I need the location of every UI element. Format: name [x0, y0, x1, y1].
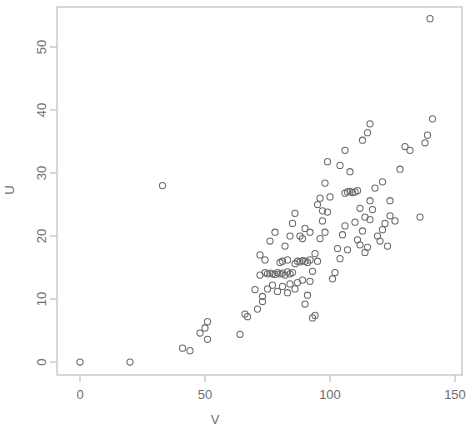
data-point	[362, 214, 368, 220]
data-point	[407, 147, 413, 153]
data-point	[252, 286, 258, 292]
y-tick-label: 50	[34, 40, 49, 54]
data-point	[179, 345, 185, 351]
data-point	[364, 130, 370, 136]
data-point	[304, 292, 310, 298]
data-point	[319, 218, 325, 224]
data-point	[429, 116, 435, 122]
data-point	[387, 198, 393, 204]
data-point	[257, 252, 263, 258]
y-tick-label: 0	[34, 358, 49, 365]
y-tick-label: 40	[34, 103, 49, 117]
plot-canvas: 050100150 01020304050 V U	[0, 0, 468, 434]
data-point	[274, 288, 280, 294]
data-point	[344, 247, 350, 253]
data-point	[309, 268, 315, 274]
data-point	[397, 166, 403, 172]
data-point	[312, 251, 318, 257]
data-point	[379, 179, 385, 185]
data-point	[202, 325, 208, 331]
data-point	[267, 238, 273, 244]
data-point	[77, 359, 83, 365]
data-point	[317, 235, 323, 241]
y-tick-label: 10	[34, 292, 49, 306]
data-point	[314, 201, 320, 207]
x-tick-label: 100	[319, 387, 341, 402]
data-point	[322, 180, 328, 186]
x-axis-title: V	[211, 412, 220, 427]
data-point	[424, 132, 430, 138]
data-point	[187, 348, 193, 354]
data-point	[369, 206, 375, 212]
data-point	[367, 198, 373, 204]
y-axis-ticks: 01020304050	[34, 40, 57, 366]
data-point	[392, 218, 398, 224]
data-point	[384, 243, 390, 249]
data-point	[204, 319, 210, 325]
data-point	[342, 223, 348, 229]
data-point	[292, 210, 298, 216]
data-point	[307, 229, 313, 235]
y-axis-title: U	[2, 185, 17, 194]
data-point	[317, 195, 323, 201]
data-point	[359, 228, 365, 234]
data-point	[327, 194, 333, 200]
data-point	[337, 162, 343, 168]
data-point	[332, 269, 338, 275]
data-point	[307, 278, 313, 284]
data-point	[387, 213, 393, 219]
x-tick-label: 150	[444, 387, 466, 402]
y-tick-label: 20	[34, 229, 49, 243]
data-point	[292, 286, 298, 292]
data-point	[204, 336, 210, 342]
data-point	[272, 229, 278, 235]
data-point	[262, 257, 268, 263]
data-point	[197, 330, 203, 336]
data-point	[322, 229, 328, 235]
data-point	[379, 227, 385, 233]
data-point	[159, 183, 165, 189]
data-point	[279, 283, 285, 289]
data-point	[287, 281, 293, 287]
data-point	[324, 159, 330, 165]
scatter-plot-figure: 050100150 01020304050 V U	[0, 0, 468, 434]
data-point	[334, 246, 340, 252]
data-point	[237, 331, 243, 337]
data-point	[342, 147, 348, 153]
data-point	[299, 277, 305, 283]
data-point	[269, 282, 275, 288]
data-point	[314, 258, 320, 264]
x-axis-ticks: 050100150	[76, 375, 465, 402]
data-point	[367, 121, 373, 127]
data-point	[289, 220, 295, 226]
data-point	[329, 276, 335, 282]
data-point	[422, 140, 428, 146]
x-tick-label: 50	[198, 387, 212, 402]
y-tick-label: 30	[34, 166, 49, 180]
data-point	[359, 137, 365, 143]
data-point	[339, 232, 345, 238]
data-point	[417, 214, 423, 220]
plot-frame	[57, 7, 462, 375]
data-point	[352, 219, 358, 225]
data-point	[254, 306, 260, 312]
data-point	[347, 169, 353, 175]
data-point	[427, 16, 433, 22]
data-point	[287, 233, 293, 239]
data-point	[357, 242, 363, 248]
data-point	[377, 238, 383, 244]
data-point	[127, 359, 133, 365]
data-point	[337, 256, 343, 262]
x-tick-label: 0	[76, 387, 83, 402]
data-points-layer	[77, 16, 436, 366]
data-point	[382, 220, 388, 226]
data-point	[372, 185, 378, 191]
data-point	[302, 301, 308, 307]
data-point	[357, 205, 363, 211]
data-point	[282, 243, 288, 249]
data-point	[284, 290, 290, 296]
data-point	[364, 244, 370, 250]
